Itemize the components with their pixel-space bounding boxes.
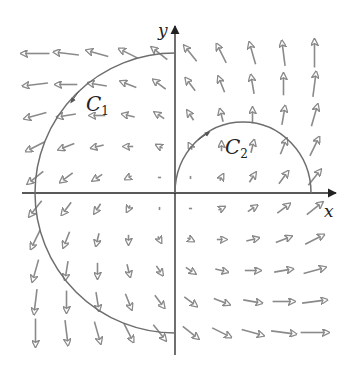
field-arrow <box>156 266 162 275</box>
field-arrow <box>93 174 102 180</box>
field-arrow <box>212 328 231 337</box>
field-arrow <box>218 77 224 93</box>
curve-c2-direction-arrow <box>198 133 208 140</box>
field-arrow <box>274 269 293 272</box>
field-arrow <box>184 46 196 62</box>
curve-c1-label: C1 <box>86 92 109 118</box>
field-arrow <box>91 145 103 148</box>
field-arrow <box>94 322 100 344</box>
curve-c2-label: C2 <box>225 135 248 161</box>
field-arrow <box>54 52 79 55</box>
field-arrow <box>87 50 109 56</box>
field-arrow <box>251 75 254 94</box>
field-arrow <box>243 300 262 303</box>
vector-field-diagram: x y C1 C2 <box>0 0 355 371</box>
field-arrow <box>220 109 223 121</box>
field-arrow <box>156 145 162 148</box>
field-arrow <box>279 171 288 183</box>
field-arrow <box>155 112 164 118</box>
field-arrow <box>277 204 289 213</box>
field-arrow <box>214 298 230 304</box>
field-arrow <box>307 202 323 214</box>
field-arrow <box>34 289 37 314</box>
y-axis-label: y <box>157 20 168 40</box>
field-arrow <box>218 207 224 210</box>
field-arrow <box>96 233 99 245</box>
field-arrow <box>187 238 193 241</box>
field-arrow <box>311 105 317 127</box>
field-arrow <box>186 78 195 90</box>
field-arrow <box>215 269 227 272</box>
field-arrow <box>32 260 38 282</box>
field-arrow <box>88 83 107 86</box>
field-arrow <box>251 140 254 152</box>
field-arrow <box>304 267 326 273</box>
field-arrow <box>186 267 195 273</box>
field-arrow <box>31 230 40 249</box>
field-arrow <box>220 174 223 180</box>
field-arrow <box>310 137 319 156</box>
field-arrow <box>96 292 99 311</box>
field-arrow <box>127 205 130 211</box>
field-arrow <box>302 300 327 303</box>
field-arrow <box>246 238 258 241</box>
field-arrow <box>125 294 131 310</box>
field-arrow <box>248 205 257 211</box>
field-arrow <box>158 236 161 242</box>
field-arrow <box>122 114 134 117</box>
field-arrow <box>184 297 196 306</box>
field-arrow <box>121 81 137 87</box>
field-arrow <box>305 235 324 244</box>
field-arrow <box>155 295 164 307</box>
field-arrow <box>57 114 76 117</box>
field-arrow <box>23 83 48 86</box>
field-arrow <box>282 41 285 66</box>
field-arrow <box>60 173 72 182</box>
field-arrow <box>94 204 100 213</box>
field-arrow <box>276 236 292 242</box>
field-arrow <box>62 202 71 214</box>
field-arrow <box>183 326 199 338</box>
field-arrow <box>127 264 130 276</box>
field-arrow <box>249 43 255 65</box>
field-arrow <box>153 80 165 89</box>
field-arrow <box>249 173 255 182</box>
field-arrow <box>119 49 138 58</box>
field-arrow <box>280 139 286 155</box>
field-arrow <box>282 106 285 125</box>
field-arrow <box>125 176 131 179</box>
field-arrow <box>217 44 226 63</box>
field-arrow <box>187 111 193 120</box>
x-axis-label: x <box>324 201 334 221</box>
field-arrow <box>242 329 264 335</box>
field-arrow <box>271 331 296 334</box>
field-arrow <box>63 232 69 248</box>
field-arrow <box>65 261 68 280</box>
field-arrow <box>313 72 316 97</box>
field-arrow <box>59 143 75 149</box>
field-arrow <box>65 320 68 345</box>
field-arrow <box>25 112 47 118</box>
